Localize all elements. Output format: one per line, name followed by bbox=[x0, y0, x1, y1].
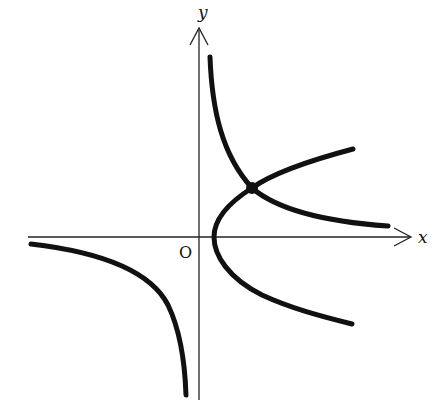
y-axis-label: y bbox=[198, 2, 208, 22]
origin-label: O bbox=[179, 243, 192, 262]
hyperbola-left-branch bbox=[31, 244, 186, 395]
y-axis bbox=[190, 28, 208, 400]
x-axis bbox=[28, 228, 411, 246]
intersection-point bbox=[246, 182, 258, 194]
coordinate-diagram bbox=[0, 0, 447, 419]
x-axis-label: x bbox=[418, 227, 428, 247]
